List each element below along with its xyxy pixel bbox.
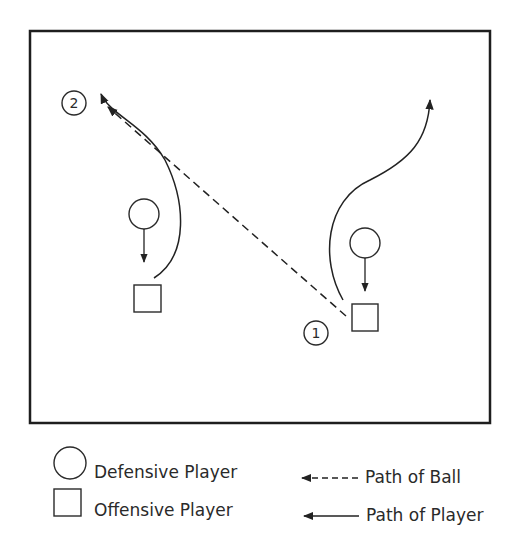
legend-offensive-icon <box>54 489 81 516</box>
right-player-path-arrow <box>330 100 430 300</box>
play-diagram: 2 1 Defensive Player Offensive Player Pa… <box>0 0 518 555</box>
position-marker-2: 2 <box>62 91 86 115</box>
right-defensive-player <box>350 228 380 258</box>
right-offensive-player <box>352 304 378 331</box>
court-boundary <box>30 31 490 423</box>
legend: Defensive Player Offensive Player Path o… <box>54 447 483 525</box>
legend-player-path-label: Path of Player <box>366 505 483 525</box>
left-offensive-player <box>134 285 161 312</box>
legend-defensive-icon <box>54 447 86 479</box>
legend-defensive-label: Defensive Player <box>94 462 237 482</box>
legend-offensive-label: Offensive Player <box>94 500 233 520</box>
left-defensive-player <box>129 199 159 229</box>
marker-1-label: 1 <box>312 325 321 341</box>
legend-ball-path-label: Path of Ball <box>365 467 461 487</box>
left-player-path-arrow <box>101 94 181 278</box>
position-marker-1: 1 <box>304 321 328 345</box>
marker-2-label: 2 <box>70 95 79 111</box>
